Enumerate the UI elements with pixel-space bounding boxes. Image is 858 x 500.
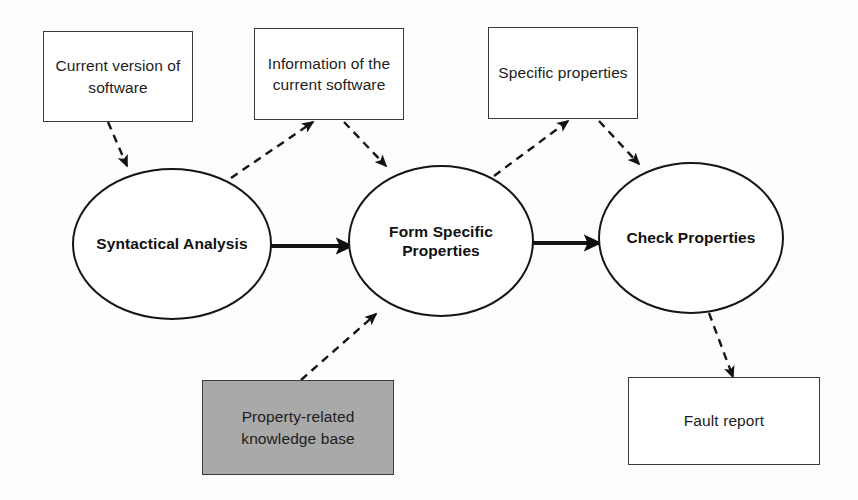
- edge-form-specific-properties-to-specific-properties: [494, 121, 568, 176]
- node-label: Specific properties: [490, 62, 635, 83]
- node-current-version-of-software: Current version of software: [43, 31, 193, 122]
- diagram-canvas: Current version of software Information …: [0, 0, 858, 500]
- node-information-of-the-current-software: Information of the current software: [254, 28, 404, 120]
- node-label: Fault report: [676, 410, 772, 431]
- node-label: Information of the current software: [260, 53, 398, 96]
- node-syntactical-analysis: Syntactical Analysis: [72, 168, 272, 320]
- edge-information-to-form-specific-properties: [344, 122, 386, 166]
- edge-check-properties-to-fault-report: [709, 313, 733, 377]
- node-label: Form Specific Properties: [381, 222, 501, 261]
- edge-knowledge-base-to-form-specific-properties: [301, 314, 376, 380]
- node-label: Property-related knowledge base: [233, 406, 362, 449]
- node-property-related-knowledge-base: Property-related knowledge base: [202, 380, 394, 475]
- node-label: Current version of software: [48, 55, 189, 98]
- node-specific-properties: Specific properties: [488, 27, 638, 119]
- edge-specific-properties-to-check-properties: [599, 121, 639, 164]
- edge-syntactical-analysis-to-information: [231, 122, 313, 178]
- node-check-properties: Check Properties: [598, 162, 784, 314]
- node-label: Check Properties: [618, 228, 763, 247]
- node-fault-report: Fault report: [628, 377, 820, 465]
- node-form-specific-properties: Form Specific Properties: [348, 165, 534, 317]
- node-label: Syntactical Analysis: [88, 234, 255, 253]
- edge-current-version-to-syntactical-analysis: [108, 122, 127, 166]
